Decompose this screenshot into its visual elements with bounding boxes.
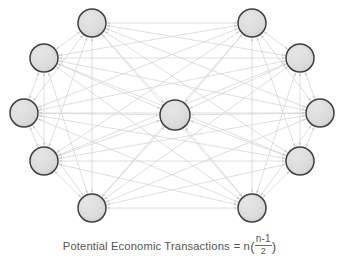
network-edge [56,67,240,199]
caption-fraction: n-1 2 [255,234,272,256]
fraction-denominator: 2 [261,246,266,256]
network-edge [39,61,286,110]
network-edge [185,127,242,196]
network-edge [55,171,82,197]
network-edge [104,67,288,199]
network-node-n10[interactable] [238,194,266,222]
network-node-n8[interactable] [286,147,314,175]
network-edge [263,171,290,197]
caption-multiplier: n [243,240,249,252]
network-edge [56,32,80,49]
figure-canvas: Potential Economic Transactions = n ( n-… [0,0,339,260]
network-node-n11[interactable] [160,100,190,130]
caption-lead-text: Potential Economic Transactions [63,240,230,252]
network-node-n7[interactable] [30,147,58,175]
caption-close-paren: ) [272,239,276,254]
network-edge [191,113,305,115]
network-edge [39,113,159,115]
network-node-n9[interactable] [78,194,106,222]
network-edge [306,127,314,147]
network-diagram [0,0,339,232]
network-node-n4[interactable] [286,44,314,72]
network-edge [30,127,38,147]
figure-caption: Potential Economic Transactions = n ( n-… [0,232,339,260]
network-edge [190,64,287,108]
network-edge [102,34,164,103]
network-edge [106,119,306,202]
fraction-numerator: n-1 [255,234,272,246]
network-node-n1[interactable] [78,9,106,37]
network-node-n5[interactable] [10,99,38,127]
network-edge [38,119,238,202]
network-node-n2[interactable] [238,9,266,37]
network-node-n6[interactable] [306,99,334,127]
network-edge [264,32,288,49]
network-node-n3[interactable] [30,44,58,72]
network-edge [58,120,160,156]
caption-equals-sign: = [234,240,241,252]
